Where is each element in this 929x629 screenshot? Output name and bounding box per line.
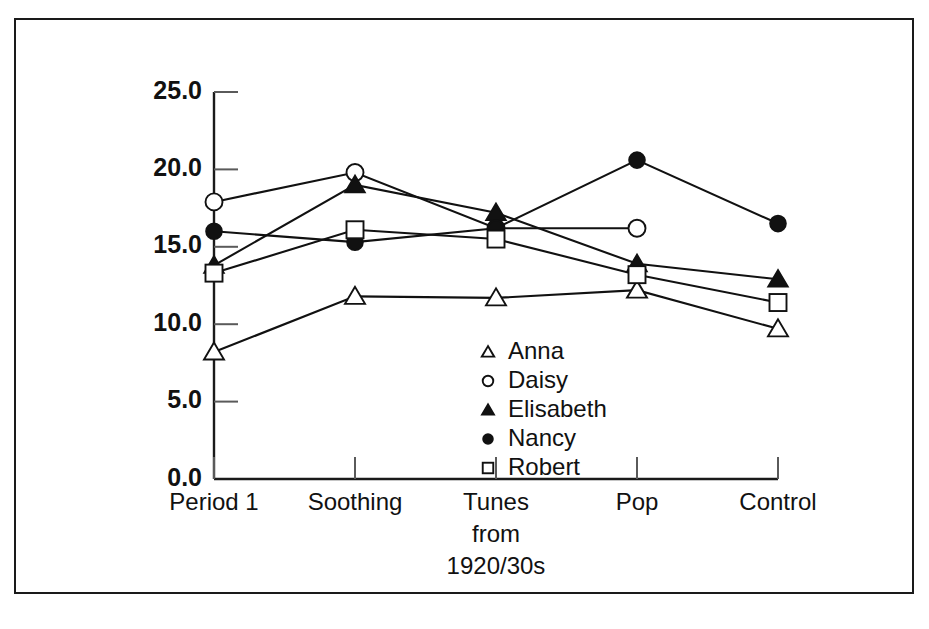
data-point-nancy-0 [206, 223, 222, 239]
data-point-robert-1 [347, 221, 364, 238]
legend-marker-nancy [483, 434, 493, 444]
data-point-robert-0 [206, 265, 223, 282]
series-line-daisy [214, 173, 637, 229]
data-point-nancy-4 [770, 216, 786, 232]
legend-label-elisabeth: Elisabeth [508, 395, 607, 422]
x-tick-label-3: Pop [616, 488, 659, 515]
data-point-daisy-0 [206, 193, 223, 210]
legend-marker-anna [482, 346, 494, 357]
data-point-robert-4 [770, 294, 787, 311]
legend-label-robert: Robert [508, 453, 580, 480]
y-tick-label: 25.0 [153, 76, 202, 104]
data-point-daisy-3 [629, 220, 646, 237]
legend-marker-daisy [483, 376, 494, 387]
legend-label-nancy: Nancy [508, 424, 576, 451]
x-axis [214, 457, 778, 479]
data-point-anna-1 [345, 287, 365, 304]
y-tick-label: 0.0 [167, 463, 202, 491]
legend-label-anna: Anna [508, 337, 565, 364]
y-axis: 0.05.010.015.020.025.0 [153, 76, 238, 491]
series-lines [214, 160, 778, 352]
x-tick-label-1: Soothing [308, 488, 403, 515]
y-tick-label: 15.0 [153, 230, 202, 258]
series-markers [204, 152, 788, 359]
chart-legend: AnnaDaisyElisabethNancyRobert [482, 337, 607, 480]
y-tick-label: 5.0 [167, 385, 202, 413]
x-tick-label-4: Control [739, 488, 816, 515]
x-tick-label-2: 1920/30s [447, 552, 546, 579]
x-tick-label-2: from [472, 520, 520, 547]
data-point-anna-0 [204, 343, 224, 360]
figure-frame: 0.05.010.015.020.025.0 Period 1SoothingT… [14, 18, 914, 594]
x-tick-labels: Period 1SoothingTunesfrom1920/30sPopCont… [169, 488, 816, 579]
legend-marker-elisabeth [482, 404, 494, 415]
legend-label-daisy: Daisy [508, 366, 568, 393]
x-tick-label-2: Tunes [463, 488, 529, 515]
data-point-robert-2 [488, 231, 505, 248]
y-tick-label: 20.0 [153, 153, 202, 181]
legend-marker-robert [483, 463, 494, 474]
x-tick-label-0: Period 1 [169, 488, 258, 515]
y-tick-label: 10.0 [153, 308, 202, 336]
line-chart: 0.05.010.015.020.025.0 Period 1SoothingT… [16, 20, 912, 592]
data-point-nancy-3 [629, 152, 645, 168]
data-point-robert-3 [629, 266, 646, 283]
